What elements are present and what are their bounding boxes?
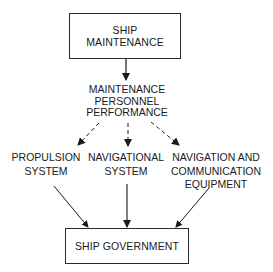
node-label-line: PERFORMANCE [86, 107, 168, 119]
node-ship-maintenance: SHIP MAINTENANCE [69, 13, 181, 59]
node-personnel-performance: MAINTENANCE PERSONNEL PERFORMANCE [86, 84, 168, 119]
node-label-line: NAVIGATIONAL [88, 151, 164, 165]
node-ship-government: SHIP GOVERNMENT [65, 228, 189, 264]
node-label-line: PROPULSION [12, 151, 81, 165]
node-label-line: MAINTENANCE [86, 84, 168, 96]
node-propulsion-system: PROPULSION SYSTEM [12, 151, 81, 178]
dashed-arrow-to-propulsion [78, 123, 99, 145]
node-label-line: MAINTENANCE [86, 36, 164, 49]
node-navigational-system: NAVIGATIONAL SYSTEM [88, 151, 164, 178]
dashed-arrow-to-nav-comm [151, 122, 179, 145]
node-label-line: SYSTEM [12, 165, 81, 179]
node-nav-comm-equipment: NAVIGATION AND COMMUNICATION EQUIPMENT [171, 151, 261, 192]
node-label-line: COMMUNICATION [171, 165, 261, 179]
node-label-line: SYSTEM [88, 165, 164, 179]
node-label-line: SHIP GOVERNMENT [75, 240, 179, 253]
flowchart-canvas: SHIP MAINTENANCE MAINTENANCE PERSONNEL P… [0, 0, 273, 272]
node-label-line: EQUIPMENT [171, 178, 261, 192]
arrow-propulsion-to-government [54, 186, 88, 227]
node-label-line: NAVIGATION AND [171, 151, 261, 165]
node-label-line: SHIP [86, 24, 164, 37]
arrow-nav-comm-to-government [176, 188, 209, 227]
